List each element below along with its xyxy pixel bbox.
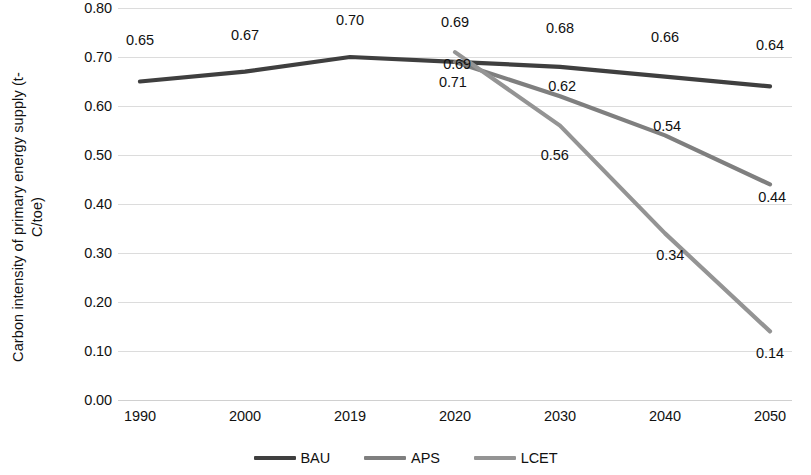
data-label: 0.34 xyxy=(656,247,684,263)
y-axis-tick-labels: 0.800.700.600.500.400.300.200.100.00 xyxy=(62,0,112,410)
plot-area: 0.650.670.700.690.690.710.680.620.560.66… xyxy=(118,8,792,400)
legend-swatch-icon xyxy=(254,456,296,460)
data-label: 0.65 xyxy=(126,32,154,48)
line-chart: Carbon intensity of primary energy suppl… xyxy=(0,0,811,475)
y-axis-tick-label: 0.20 xyxy=(62,294,112,310)
y-axis-title: Carbon intensity of primary energy suppl… xyxy=(9,17,47,417)
data-label: 0.44 xyxy=(758,189,786,205)
legend-item-bau[interactable]: BAU xyxy=(254,450,331,466)
y-axis-tick-label: 0.10 xyxy=(62,343,112,359)
data-label: 0.62 xyxy=(548,78,576,94)
data-label: 0.67 xyxy=(231,27,259,43)
data-label: 0.54 xyxy=(653,118,681,134)
y-axis-tick-label: 0.60 xyxy=(62,98,112,114)
data-label: 0.69 xyxy=(441,14,469,30)
legend-item-aps[interactable]: APS xyxy=(364,450,440,466)
legend-label: BAU xyxy=(301,450,331,466)
data-label: 0.64 xyxy=(756,37,784,53)
x-axis-tick-labels: 1990200020192020203020402050 xyxy=(118,408,792,436)
y-axis-tick-label: 0.00 xyxy=(62,392,112,408)
x-axis-tick-label: 1990 xyxy=(124,408,156,424)
data-label: 0.69 xyxy=(443,56,471,72)
data-label: 0.70 xyxy=(336,12,364,28)
data-label: 0.71 xyxy=(439,74,467,90)
y-axis-tick-label: 0.80 xyxy=(62,0,112,16)
x-axis-tick-label: 2030 xyxy=(544,408,576,424)
x-axis-tick-label: 2050 xyxy=(754,408,786,424)
series-line-lcet xyxy=(455,52,770,331)
y-axis-tick-label: 0.40 xyxy=(62,196,112,212)
x-axis-tick-label: 2019 xyxy=(334,408,366,424)
legend-label: APS xyxy=(411,450,440,466)
y-axis-tick-label: 0.50 xyxy=(62,147,112,163)
legend-label: LCET xyxy=(521,450,558,466)
legend-swatch-icon xyxy=(364,456,406,460)
chart-legend: BAUAPSLCET xyxy=(0,450,811,466)
gridline xyxy=(118,400,792,401)
data-label: 0.66 xyxy=(651,29,679,45)
x-axis-tick-label: 2040 xyxy=(649,408,681,424)
legend-swatch-icon xyxy=(474,456,516,460)
y-axis-tick-label: 0.70 xyxy=(62,49,112,65)
y-axis-tick-label: 0.30 xyxy=(62,245,112,261)
x-axis-tick-label: 2020 xyxy=(439,408,471,424)
legend-item-lcet[interactable]: LCET xyxy=(474,450,558,466)
x-axis-tick-label: 2000 xyxy=(229,408,261,424)
data-label: 0.14 xyxy=(756,345,784,361)
data-label: 0.56 xyxy=(541,147,569,163)
data-label: 0.68 xyxy=(546,20,574,36)
